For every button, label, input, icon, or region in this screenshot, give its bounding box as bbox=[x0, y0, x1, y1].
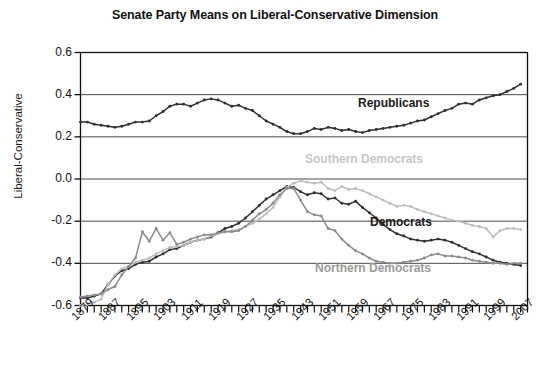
series-marker bbox=[182, 244, 185, 247]
series-marker bbox=[519, 228, 522, 231]
series-marker bbox=[499, 262, 502, 265]
series-marker bbox=[278, 126, 281, 129]
series-marker bbox=[478, 260, 481, 263]
series-marker bbox=[223, 227, 226, 230]
series-marker bbox=[512, 227, 515, 230]
series-marker bbox=[457, 103, 460, 106]
series-marker bbox=[320, 214, 323, 217]
series-marker bbox=[375, 128, 378, 131]
series-marker bbox=[437, 112, 440, 115]
series-marker bbox=[368, 192, 371, 195]
series-marker bbox=[134, 121, 137, 124]
series-marker bbox=[251, 210, 254, 213]
series-marker bbox=[430, 253, 433, 256]
series-marker bbox=[444, 217, 447, 220]
series-line bbox=[81, 186, 521, 298]
series-marker bbox=[258, 204, 261, 207]
series-marker bbox=[423, 119, 426, 122]
series-marker bbox=[120, 273, 123, 276]
series-marker bbox=[471, 224, 474, 227]
series-marker bbox=[162, 252, 165, 255]
series-marker bbox=[512, 262, 515, 265]
series-marker bbox=[196, 236, 199, 239]
series-marker bbox=[203, 238, 206, 241]
series-marker bbox=[457, 244, 460, 247]
series-marker bbox=[450, 219, 453, 222]
series-marker bbox=[368, 211, 371, 214]
series-marker bbox=[340, 202, 343, 205]
series-marker bbox=[175, 243, 178, 246]
series-marker bbox=[237, 222, 240, 225]
series-marker bbox=[272, 202, 275, 205]
series-marker bbox=[395, 125, 398, 128]
series-marker bbox=[505, 90, 508, 93]
series-marker bbox=[313, 213, 316, 216]
series-marker bbox=[450, 255, 453, 258]
series-marker bbox=[361, 206, 364, 209]
series-marker bbox=[423, 257, 426, 260]
series-marker bbox=[265, 120, 268, 123]
series-marker bbox=[278, 189, 281, 192]
series-marker bbox=[347, 188, 350, 191]
series-marker bbox=[354, 130, 357, 133]
series-marker bbox=[285, 187, 288, 190]
series-marker bbox=[505, 227, 508, 230]
series-marker bbox=[505, 263, 508, 266]
series-marker bbox=[423, 210, 426, 213]
series-marker bbox=[223, 102, 226, 105]
series-marker bbox=[313, 182, 316, 185]
series-marker bbox=[340, 238, 343, 241]
series-marker bbox=[340, 185, 343, 188]
series-marker bbox=[382, 127, 385, 130]
series-marker bbox=[203, 233, 206, 236]
series-marker bbox=[258, 218, 261, 221]
series-marker bbox=[306, 193, 309, 196]
series-marker bbox=[168, 105, 171, 108]
series-marker bbox=[306, 210, 309, 213]
series-marker bbox=[79, 121, 82, 124]
series-marker bbox=[347, 128, 350, 131]
series-marker bbox=[272, 193, 275, 196]
series-marker bbox=[134, 257, 137, 260]
series-marker bbox=[292, 182, 295, 185]
series-marker bbox=[402, 234, 405, 237]
series-marker bbox=[265, 198, 268, 201]
series-marker bbox=[196, 239, 199, 242]
series-marker bbox=[437, 214, 440, 217]
series-marker bbox=[320, 181, 323, 184]
series-marker bbox=[340, 129, 343, 132]
series-marker bbox=[464, 257, 467, 260]
series-marker bbox=[258, 114, 261, 117]
series-marker bbox=[492, 262, 495, 265]
series-marker bbox=[100, 298, 103, 301]
series-marker bbox=[237, 229, 240, 232]
series-marker bbox=[499, 93, 502, 96]
series-marker bbox=[107, 283, 110, 286]
series-marker bbox=[134, 261, 137, 264]
series-marker bbox=[265, 208, 268, 211]
series-marker bbox=[203, 98, 206, 101]
series-marker bbox=[278, 193, 281, 196]
series-marker bbox=[416, 120, 419, 123]
series-marker bbox=[113, 273, 116, 276]
series-marker bbox=[430, 115, 433, 118]
series-marker bbox=[292, 132, 295, 135]
series-marker bbox=[113, 285, 116, 288]
series-marker bbox=[499, 229, 502, 232]
series-marker bbox=[162, 239, 165, 242]
series-marker bbox=[155, 227, 158, 230]
series-marker bbox=[251, 109, 254, 112]
series-marker bbox=[285, 130, 288, 133]
series-marker bbox=[182, 241, 185, 244]
series-marker bbox=[320, 128, 323, 131]
series-marker bbox=[299, 180, 302, 183]
series-marker bbox=[237, 104, 240, 107]
series-marker bbox=[244, 217, 247, 220]
series-marker bbox=[485, 256, 488, 259]
series-marker bbox=[189, 241, 192, 244]
series-marker bbox=[485, 96, 488, 99]
series-marker bbox=[485, 227, 488, 230]
series-marker bbox=[327, 227, 330, 230]
series-marker bbox=[155, 114, 158, 117]
series-marker bbox=[333, 127, 336, 130]
